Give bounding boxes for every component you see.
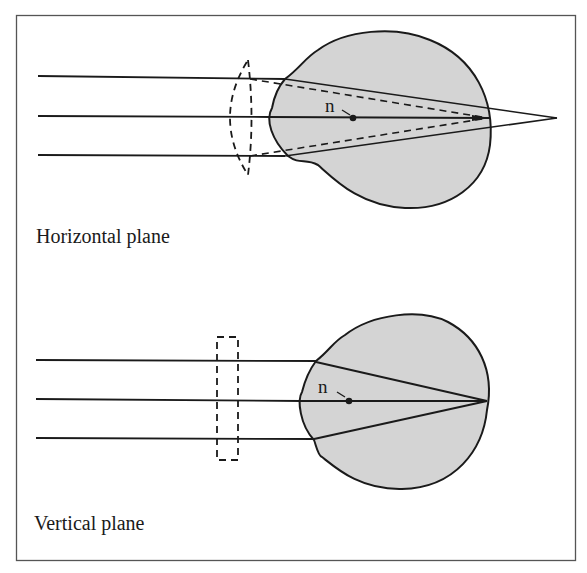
vertical-plane-panel: n Vertical plane — [34, 314, 489, 535]
nodal-point-label: n — [318, 376, 328, 397]
ray-top — [38, 76, 285, 79]
vertical-plane-caption: Vertical plane — [34, 512, 145, 535]
ray-middle — [38, 116, 270, 117]
horizontal-plane-panel: n Horizontal plane — [36, 31, 557, 248]
nodal-point-label: n — [325, 95, 335, 116]
axis-ray — [270, 117, 490, 118]
nodal-point — [346, 398, 353, 405]
ray-bottom — [36, 438, 314, 439]
eyeball-outline — [269, 31, 490, 208]
ray-bottom — [38, 155, 285, 156]
ray-middle — [36, 399, 302, 401]
astigmatism-correction-diagram: n Horizontal plane n Vertical plane — [0, 0, 587, 573]
horizontal-plane-caption: Horizontal plane — [36, 225, 170, 248]
nodal-point — [350, 115, 357, 122]
ray-top — [36, 360, 316, 361]
flat-plate-lens — [217, 337, 238, 460]
